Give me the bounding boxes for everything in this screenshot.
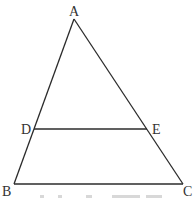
label-b: B [2, 184, 11, 199]
label-a: A [69, 4, 80, 19]
triangle-diagram: A D E B C [0, 0, 194, 199]
clipped-caption-remnant [40, 195, 162, 198]
label-e: E [152, 122, 161, 137]
label-d: D [21, 122, 31, 137]
segment-ac [74, 19, 183, 184]
segment-ab [14, 19, 74, 184]
label-c: C [183, 184, 192, 199]
